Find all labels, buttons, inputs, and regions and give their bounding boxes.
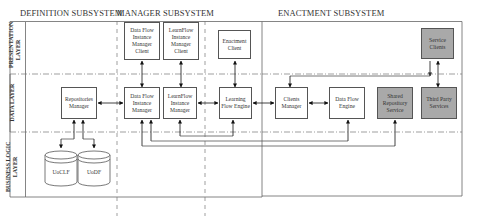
box-dataflow-instance-manager: Data Flow Instance Manager	[124, 87, 160, 119]
box-repositories-manager: Repositories Manager	[61, 87, 97, 119]
layer-label-data: DATA LAYER	[9, 79, 16, 127]
layer-label-business-logic: BUSINESS LOGIC LAYER	[5, 142, 19, 192]
layer-label-presentation: PRESENTATION LAYER	[8, 32, 22, 68]
box-enactment-client: Enactment Client	[218, 30, 251, 59]
box-learnflow-instance-manager: LearnFlow Instance Manager	[163, 87, 197, 119]
box-learnflow-instance-manager-client: LearnFlow Instance Manager Client	[163, 22, 199, 60]
box-dataflow-instance-manager-client: Data Flow Instance Manager Client	[124, 22, 160, 60]
database-label-uoclf: UoCLF	[46, 169, 76, 175]
box-clients-manager: Clients Manager	[275, 87, 308, 119]
box-dataflow-engine: Data Flow Engine	[329, 87, 365, 119]
box-third-party-services: Third Party Services	[421, 87, 457, 119]
database-label-uodf: UoDF	[79, 169, 109, 175]
box-learning-flow-engine: Learning Flow Engine	[219, 87, 252, 119]
box-shared-repository-service: Shared Repository Service	[377, 87, 413, 119]
box-service-clients: Service Clients	[421, 28, 454, 59]
